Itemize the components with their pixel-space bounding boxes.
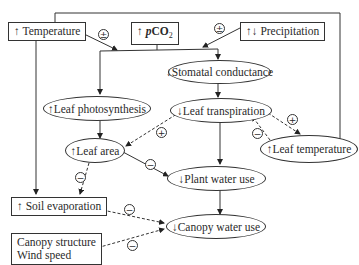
canopy-water-use-oval: ↓ Canopy water use bbox=[166, 214, 266, 239]
canopy-structure-box: Canopy structure Wind speed bbox=[11, 233, 102, 265]
sign-temperature: ± bbox=[98, 29, 109, 40]
soil-evaporation-box: ↑ Soil evaporation bbox=[11, 197, 107, 216]
leaf-area-oval: ↑ Leaf area bbox=[65, 138, 125, 163]
sign-soil-evap-canopy-water: − bbox=[124, 204, 135, 215]
soil-evaporation-label: Soil evaporation bbox=[26, 200, 102, 212]
plant-water-use-oval: ↓ Plant water use bbox=[167, 166, 266, 191]
leaf-photosynthesis-label: Leaf photosynthesis bbox=[54, 103, 146, 115]
temperature-label: Temperature bbox=[22, 25, 80, 37]
stomatal-conductance-oval: ↓ Stomatal conductance bbox=[168, 60, 271, 84]
pco2-box: ↑ pCO2 bbox=[131, 22, 179, 45]
leaf-temperature-oval: ↑ Leaf temperature bbox=[260, 135, 358, 163]
leaf-photosynthesis-oval: ↑ Leaf photosynthesis bbox=[43, 96, 151, 121]
sign-canopy-canopy-water: − bbox=[127, 240, 138, 251]
up-arrow-icon: ↑ bbox=[137, 25, 143, 37]
plant-water-use-label: Plant water use bbox=[184, 173, 254, 185]
wind-speed-label: Wind speed bbox=[17, 249, 96, 262]
up-arrow-icon: ↑ bbox=[17, 200, 23, 212]
leaf-transpiration-oval: ↓ Leaf transpiration bbox=[170, 98, 272, 123]
precipitation-box: ↑↓ Precipitation bbox=[240, 22, 325, 41]
leaf-temperature-label: Leaf temperature bbox=[272, 143, 351, 155]
up-arrow-icon: ↑ bbox=[14, 25, 20, 37]
sign-leaf-temp-transpiration: − bbox=[252, 128, 263, 139]
canopy-structure-label: Canopy structure bbox=[17, 236, 96, 249]
pco2-co-label: CO bbox=[151, 25, 168, 37]
leaf-area-label: Leaf area bbox=[76, 145, 119, 157]
sign-leaf-area-soil-evap: − bbox=[75, 172, 86, 183]
up-down-arrow-icon: ↑↓ bbox=[246, 25, 258, 37]
stomatal-conductance-label: Stomatal conductance bbox=[172, 66, 273, 78]
sign-transpiration-leaf-temp: + bbox=[287, 114, 298, 125]
sign-precipitation: ± bbox=[214, 23, 225, 34]
precipitation-label: Precipitation bbox=[260, 25, 319, 37]
leaf-transpiration-label: Leaf transpiration bbox=[183, 105, 265, 117]
temperature-box: ↑ Temperature bbox=[8, 22, 86, 41]
sign-leaf-area-plant-water: − bbox=[145, 159, 156, 170]
canopy-water-use-label: Canopy water use bbox=[178, 221, 260, 233]
pco2-subscript: 2 bbox=[169, 31, 173, 40]
sign-transpiration-leaf-area: + bbox=[156, 127, 167, 138]
